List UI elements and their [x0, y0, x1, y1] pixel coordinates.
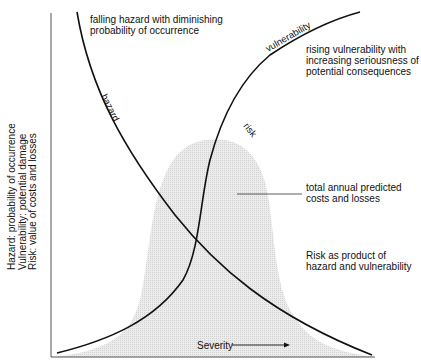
hazard-curve-label: hazard: [99, 92, 122, 123]
vulnerability-annotation: rising vulnerability with increasing ser…: [306, 44, 419, 77]
vulnerability-annotation-line-1: rising vulnerability with: [306, 44, 419, 55]
risk-product-annotation-line-1: Risk as product of: [306, 250, 412, 261]
vulnerability-annotation-line-2: increasing seriousness of: [306, 55, 419, 66]
y-axis-title: Hazard: probability of occurrence Vulner…: [7, 123, 39, 270]
hazard-annotation-line-1: falling hazard with diminishing: [90, 14, 223, 25]
risk-area-annotation: total annual predicted costs and losses: [306, 182, 402, 204]
hazard-annotation-line-2: probability of occurrence: [90, 25, 223, 36]
risk-area-annotation-line-2: costs and losses: [306, 193, 402, 204]
x-axis-title: Severity: [197, 340, 233, 351]
y-axis-title-line-risk: Risk: value of costs and losses: [28, 123, 39, 270]
y-axis-title-line-hazard: Hazard: probability of occurrence: [7, 123, 18, 270]
vulnerability-annotation-line-3: potential consequences: [306, 66, 419, 77]
risk-area: [55, 139, 375, 357]
risk-area-annotation-line-1: total annual predicted: [306, 182, 402, 193]
hazard-annotation: falling hazard with diminishing probabil…: [90, 14, 223, 36]
risk-product-annotation-line-2: hazard and vulnerability: [306, 261, 412, 272]
risk-curve-label: risk: [241, 120, 259, 139]
risk-product-annotation: Risk as product of hazard and vulnerabil…: [306, 250, 412, 272]
